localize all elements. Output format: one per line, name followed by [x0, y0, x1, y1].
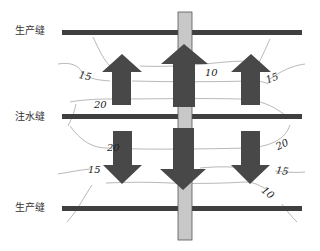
- contour-label-15-top-right: 15: [264, 71, 280, 86]
- contour-label-20-bottom-right: 20: [273, 136, 291, 152]
- contour-label-15-bottom-right: 15: [275, 164, 289, 177]
- down-arrow-center: [160, 128, 206, 190]
- contour-label-10-top-center: 10: [205, 67, 218, 78]
- up-arrow-center: [161, 44, 208, 107]
- down-arrow-right: [231, 131, 270, 184]
- up-arrows: [102, 44, 271, 107]
- up-arrow-left: [102, 54, 142, 105]
- contour-label-15-bottom-left: 15: [88, 164, 101, 175]
- down-arrow-left: [103, 131, 142, 184]
- contour-label-20-bottom-left: 20: [106, 142, 120, 153]
- contour-label-20-top-left: 20: [93, 99, 107, 110]
- contour-label-15-top-left: 15: [78, 69, 93, 82]
- fracture-flow-diagram: 15 20 10 15 20 20 15 15 10: [0, 0, 320, 251]
- down-arrows: [103, 128, 270, 190]
